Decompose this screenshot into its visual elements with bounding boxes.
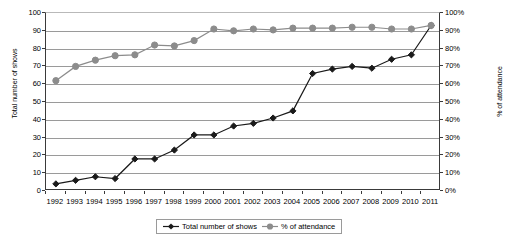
data-point-marker (211, 132, 217, 138)
y-axis-right-tick-label: 80% (445, 44, 473, 53)
data-point-marker (290, 25, 296, 31)
y-axis-left-tick-label: 100 (17, 8, 41, 17)
data-point-marker (132, 52, 138, 58)
data-point-marker (408, 26, 414, 32)
y-axis-right-tick-label: 20% (445, 150, 473, 159)
y-axis-right-title: % of attendance (496, 42, 503, 142)
data-point-marker (211, 26, 217, 32)
circle-marker-icon (262, 222, 278, 231)
series-layer (46, 13, 441, 191)
y-axis-left-tick-label: 90 (17, 26, 41, 35)
chart-container: Total number of shows % of attendance 01… (0, 0, 506, 246)
data-point-marker (369, 24, 375, 30)
y-axis-right-tick-label: 0% (445, 186, 473, 195)
data-point-marker (329, 66, 335, 72)
data-point-marker (152, 42, 158, 48)
data-point-marker (389, 56, 395, 62)
data-point-marker (92, 174, 98, 180)
data-point-marker (250, 26, 256, 32)
data-point-marker (270, 27, 276, 33)
data-point-marker (290, 108, 296, 114)
plot-area (45, 12, 440, 190)
data-point-marker (191, 37, 197, 43)
y-axis-left-tick-label: 40 (17, 115, 41, 124)
data-point-marker (349, 24, 355, 30)
series-line (56, 25, 431, 80)
y-axis-right-tick-label: 30% (445, 133, 473, 142)
y-axis-left-tick-label: 60 (17, 79, 41, 88)
series-shows (53, 22, 434, 187)
legend-label: % of attendance (281, 222, 335, 231)
series-attendance (53, 22, 434, 83)
data-point-marker (310, 25, 316, 31)
data-point-marker (53, 181, 59, 187)
y-axis-right-tick-label: 100% (445, 8, 473, 17)
data-point-marker (73, 63, 79, 69)
data-point-marker (389, 26, 395, 32)
data-point-marker (231, 28, 237, 34)
y-axis-left-tick-label: 10 (17, 168, 41, 177)
data-point-marker (329, 25, 335, 31)
data-point-marker (270, 115, 276, 121)
y-axis-left-tick-label: 30 (17, 133, 41, 142)
gridline (46, 191, 439, 192)
y-axis-left-tick-label: 0 (17, 186, 41, 195)
data-point-marker (53, 78, 59, 84)
diamond-marker-icon (163, 222, 179, 231)
data-point-marker (369, 65, 375, 71)
legend-label: Total number of shows (182, 222, 257, 231)
y-axis-right-tick-label: 90% (445, 26, 473, 35)
y-axis-right-tick-label: 60% (445, 79, 473, 88)
y-axis-left-tick-label: 70 (17, 61, 41, 70)
data-point-marker (73, 177, 79, 183)
data-point-marker (349, 63, 355, 69)
y-axis-right-tick-label: 10% (445, 168, 473, 177)
data-point-marker (152, 156, 158, 162)
y-axis-right-tick-label: 50% (445, 97, 473, 106)
y-axis-right-tick-label: 40% (445, 115, 473, 124)
data-point-marker (310, 70, 316, 76)
y-axis-right-tick-label: 70% (445, 61, 473, 70)
data-point-marker (112, 53, 118, 59)
y-axis-left-tick-label: 80 (17, 44, 41, 53)
data-point-marker (92, 57, 98, 63)
legend-item[interactable]: Total number of shows (163, 222, 257, 231)
data-point-marker (250, 120, 256, 126)
data-point-marker (428, 22, 434, 28)
x-axis-tick-label: 2011 (417, 197, 443, 206)
chart-legend: Total number of shows% of attendance (156, 219, 342, 234)
series-line (56, 25, 431, 183)
legend-item[interactable]: % of attendance (262, 222, 335, 231)
data-point-marker (171, 43, 177, 49)
y-axis-left-tick-label: 20 (17, 150, 41, 159)
data-point-marker (231, 123, 237, 129)
y-axis-left-tick-label: 50 (17, 97, 41, 106)
